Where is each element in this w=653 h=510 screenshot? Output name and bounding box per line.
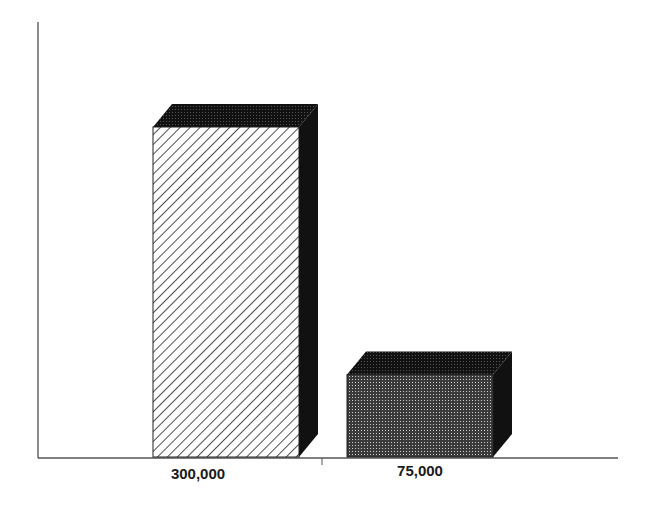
category-labels: 300,000 75,000 (171, 462, 443, 482)
bar-chart: 300,000 75,000 (0, 0, 653, 510)
bar-top-face (347, 352, 512, 375)
axes (38, 22, 618, 465)
category-label-2: 75,000 (397, 462, 443, 479)
bar-side-face (299, 104, 318, 457)
bars (153, 104, 512, 457)
bar-2 (347, 352, 512, 458)
bar-front-face (347, 375, 493, 458)
bar-1 (153, 104, 318, 457)
category-label-1: 300,000 (171, 465, 225, 482)
bar-front-face (153, 127, 299, 457)
bar-top-face (153, 104, 318, 127)
